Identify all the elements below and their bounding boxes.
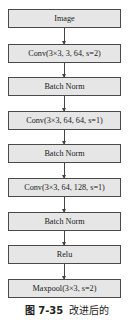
node-conv1: Conv(3×3, 3, 64, s=2) [8,44,121,63]
node-conv3: Conv(3×3, 64, 128, s=1) [8,178,121,197]
arrow-icon [64,63,65,77]
arrow-icon [64,197,65,212]
figure-caption: 图 7-35改进后的 [0,302,134,317]
node-conv2: Conv(3×3, 64, 64, s=1) [8,111,121,130]
figure-caption-text: 改进后的 [69,305,109,316]
node-maxpool: Maxpool(3×3, s=2) [8,279,121,298]
node-batch-norm-2: Batch Norm [8,144,121,163]
arrow-icon [64,231,65,245]
arrow-icon [64,264,65,279]
figure-number: 图 7-35 [25,305,64,316]
node-image: Image [8,9,121,28]
arrow-icon [64,163,65,178]
node-batch-norm-1: Batch Norm [8,77,121,96]
node-relu: Relu [8,245,121,264]
node-batch-norm-3: Batch Norm [8,212,121,231]
arrow-icon [64,96,65,111]
arrow-icon [64,28,65,44]
arrow-icon [64,130,65,144]
